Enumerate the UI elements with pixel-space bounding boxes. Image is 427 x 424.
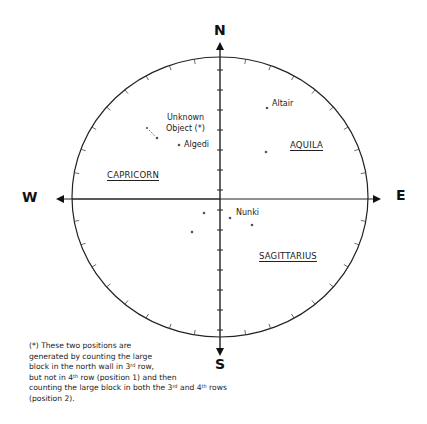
unknown-object-path: [149, 130, 155, 136]
star-label-altair: Altair: [272, 99, 293, 109]
unknown-object-label-line1: Unknown: [167, 113, 204, 123]
star-dot: [191, 231, 194, 234]
star-label-algedi: Algedi: [184, 140, 209, 150]
star-nunki-dot: [229, 217, 232, 220]
west-label: W: [22, 189, 37, 205]
star-altair-dot: [266, 107, 269, 110]
footnote: (*) These two positions are generated by…: [29, 341, 269, 405]
constellation-aquila: AQUILA: [290, 140, 323, 150]
star-algedi-dot: [178, 144, 181, 147]
footnote-line: (position 2).: [29, 394, 269, 405]
footnote-line: but not in 4th row (position 1) and then: [29, 373, 269, 384]
constellation-sagittarius: SAGITTARIUS: [259, 251, 317, 261]
star-dot: [251, 224, 254, 227]
constellation-capricorn: CAPRICORN: [107, 170, 159, 180]
star-label-nunki: Nunki: [236, 208, 259, 218]
unknown-object-label-line2: Object (*): [166, 124, 205, 134]
footnote-line: counting the large block in both the 3rd…: [29, 383, 269, 394]
unknown-object-pos2: [156, 137, 159, 140]
star-aquila-dot: [265, 151, 268, 154]
footnote-line: (*) These two positions are: [29, 341, 269, 352]
footnote-line: generated by counting the large: [29, 352, 269, 363]
footnote-line: block in the north wall in 3rd row,: [29, 362, 269, 373]
east-label: E: [396, 187, 406, 203]
unknown-object-pos1: [146, 127, 148, 129]
north-label: N: [214, 22, 226, 38]
star-dot: [203, 212, 206, 215]
